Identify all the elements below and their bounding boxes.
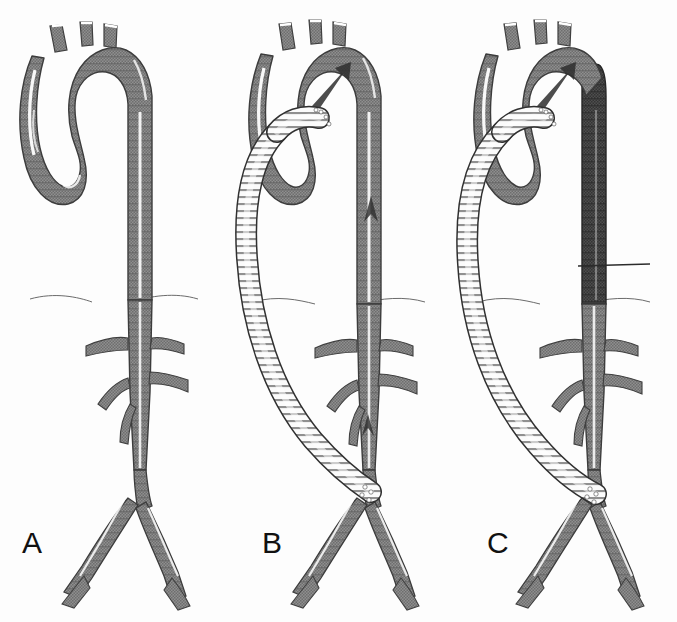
abdominal-aorta (582, 304, 606, 470)
left-renal-artery (603, 374, 642, 394)
diaphragm (253, 298, 425, 304)
right-renal-artery (150, 337, 184, 354)
diaphragm (30, 295, 198, 302)
left-common-iliac-artery (365, 502, 415, 600)
thoracic-aorta (20, 48, 152, 300)
superior-mesenteric-artery (98, 378, 130, 410)
excluded-descending-aorta (582, 64, 606, 304)
left-renal-artery (378, 374, 417, 394)
right-common-iliac-artery (64, 498, 138, 598)
panel-b: B (225, 0, 451, 622)
aortic-bifurcation (62, 470, 190, 610)
celiac-trunk (540, 339, 582, 358)
right-common-iliac-artery (518, 498, 592, 598)
celiac-trunk (315, 339, 357, 358)
superior-mesenteric-artery (327, 380, 359, 412)
panel-a: A (0, 0, 226, 622)
celiac-trunk (86, 337, 128, 356)
superior-mesenteric-artery (552, 380, 584, 412)
arch-branch-vessels (279, 20, 346, 50)
arch-branch-vessels (504, 20, 571, 50)
panel-c: C (450, 0, 676, 622)
right-renal-artery (604, 339, 638, 356)
panel-c-illustration (450, 0, 677, 622)
abdominal-aorta (128, 300, 152, 470)
panel-label-a: A (22, 528, 42, 558)
left-renal-artery (149, 372, 188, 392)
thoracic-aorta (249, 48, 381, 304)
diaphragm (478, 298, 650, 304)
right-common-iliac-artery (293, 498, 367, 598)
left-common-iliac-artery (590, 502, 640, 600)
arch-branch-vessels (50, 22, 117, 52)
panel-label-b: B (262, 528, 282, 558)
right-renal-artery (379, 339, 413, 356)
left-common-iliac-artery (136, 502, 186, 600)
abdominal-aorta (357, 304, 381, 470)
panel-b-illustration (225, 0, 451, 622)
figure-root: A (0, 0, 677, 622)
panel-label-c: C (487, 528, 509, 558)
